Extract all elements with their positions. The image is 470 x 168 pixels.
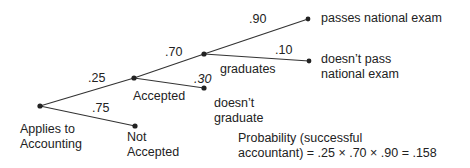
node-not-accepted	[132, 123, 137, 128]
branch-doesnt-pass	[204, 54, 309, 61]
probability-formula: Probability (successful accountant) = .2…	[238, 131, 437, 161]
node-root	[37, 103, 42, 108]
branch-accepted	[40, 78, 134, 106]
prob-accepted: .25	[88, 71, 105, 85]
label-doesnt-graduate: doesn’t graduate	[214, 96, 263, 126]
prob-doesnt-pass: .10	[275, 43, 292, 57]
label-passes: passes national exam	[321, 11, 442, 26]
node-passes	[306, 17, 311, 22]
label-applies: Applies to Accounting	[20, 122, 82, 152]
prob-not-accepted: .75	[92, 101, 109, 115]
label-not-accepted: Not Accepted	[127, 130, 179, 160]
node-doesnt-graduate	[201, 85, 206, 90]
node-graduates	[201, 51, 206, 56]
prob-graduates: .70	[165, 45, 182, 59]
prob-doesnt-graduate: .30	[194, 72, 211, 86]
label-doesnt-pass: doesn’t pass national exam	[321, 52, 399, 82]
node-doesnt-pass	[307, 59, 312, 64]
label-accepted: Accepted	[133, 89, 185, 104]
node-accepted	[131, 75, 136, 80]
prob-passes: .90	[249, 12, 266, 26]
label-graduates: graduates	[220, 62, 276, 77]
